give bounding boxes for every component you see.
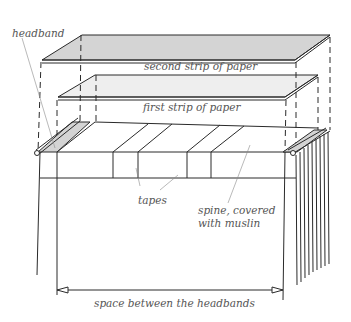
- headband-left: [35, 118, 91, 156]
- headband-right: [283, 128, 330, 156]
- spine-top: [57, 122, 318, 152]
- label-space-between: space between the headbands: [94, 297, 255, 309]
- label-headband: headband: [12, 27, 64, 39]
- second-strip-of-paper: [42, 35, 330, 63]
- label-spine-line1: spine, covered: [198, 204, 275, 216]
- label-second-strip: second strip of paper: [144, 60, 257, 72]
- label-tapes: tapes: [138, 194, 167, 206]
- diagram-drawing: [0, 0, 351, 322]
- label-first-strip: first strip of paper: [143, 101, 241, 113]
- first-strip-of-paper: [58, 75, 318, 100]
- book-pages: [296, 132, 329, 285]
- label-spine-line2: with muslin: [198, 217, 260, 229]
- dimension-arrow: [57, 287, 283, 293]
- bookbinding-diagram: headband second strip of paper first str…: [0, 0, 351, 322]
